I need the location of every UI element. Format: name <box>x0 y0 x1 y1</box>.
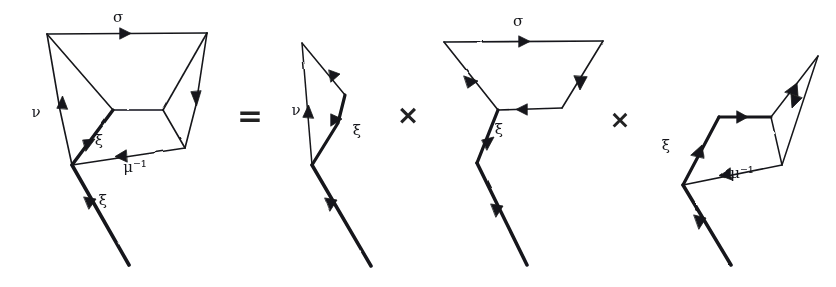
lhs-diagram <box>47 28 207 265</box>
factor-3-diagram <box>683 56 818 265</box>
lhs-edge-nu <box>47 34 72 165</box>
f2-edge-left <box>444 42 498 110</box>
f1-edge-tail <box>312 165 371 266</box>
f3-arrow-apex-down <box>791 94 802 108</box>
lhs-label-xi-upper: ξ <box>95 131 103 149</box>
lhs-label-xi-lower: ξ <box>99 191 107 209</box>
lhs-edge-xi-lower <box>72 165 129 265</box>
f2-label-sigma: σ <box>513 12 523 30</box>
f3-edge-tail <box>683 185 731 265</box>
f1-arrow-top-right <box>329 70 340 82</box>
lhs-label-nu: ν <box>31 103 40 121</box>
f2-edge-right <box>562 41 603 108</box>
f2-edge-inner-bar <box>498 108 562 110</box>
f1-label-xi: ξ <box>353 121 361 139</box>
operator-times-1: × <box>397 99 420 130</box>
f3-label-xi: ξ <box>662 136 670 154</box>
f2-arrow-left <box>464 76 478 88</box>
f3-edge-inner-diag <box>771 117 782 165</box>
f2-edge-tail <box>477 163 527 265</box>
f1-edge-xi <box>312 95 345 165</box>
f3-arrow-xi <box>691 145 704 158</box>
lhs-label-sigma: σ <box>113 8 123 26</box>
f3-label-mu-inverse: μ⁻¹ <box>730 164 754 182</box>
operator-equals: = <box>237 97 263 133</box>
f3-arrow-top-bar <box>737 111 748 123</box>
factor-2-diagram <box>444 36 603 265</box>
factor-1-diagram <box>302 43 371 266</box>
lhs-edge-inner-br <box>163 110 185 148</box>
lhs-arrow-sigma <box>120 28 131 39</box>
lhs-edge-xi-upper <box>72 110 113 165</box>
f1-arrow-nu <box>303 105 314 118</box>
f1-edge-nu <box>302 43 312 165</box>
f2-label-xi: ξ <box>495 120 503 138</box>
f2-arrow-sigma <box>519 36 530 47</box>
diagram-canvas: = × × σ ν ξ μ⁻¹ ξ ν ξ σ ξ ξ μ⁻¹ <box>0 0 836 287</box>
f3-edge-apex-down <box>782 56 818 165</box>
f1-edge-top-right <box>302 43 345 95</box>
lhs-edge-right <box>185 33 207 148</box>
f2-arrow-inner-bar <box>516 104 527 115</box>
operator-times-2: × <box>610 105 631 134</box>
lhs-edge-tl-inner <box>47 34 113 110</box>
f2-arrow-right <box>574 76 587 90</box>
lhs-label-mu-inverse: μ⁻¹ <box>123 158 147 176</box>
f1-label-nu: ν <box>291 101 300 119</box>
figure-root: = × × σ ν ξ μ⁻¹ ξ ν ξ σ ξ ξ μ⁻¹ <box>0 0 836 287</box>
lhs-arrow-right <box>191 91 201 106</box>
